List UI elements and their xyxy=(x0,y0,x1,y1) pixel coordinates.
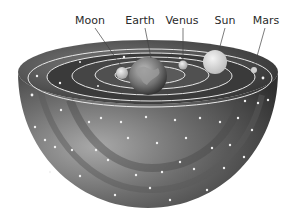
label-venus: Venus xyxy=(165,14,198,27)
label-moon: Moon xyxy=(75,14,105,27)
earth-icon xyxy=(129,57,167,95)
venus-icon xyxy=(179,61,188,70)
sun-icon xyxy=(203,50,227,74)
label-mars: Mars xyxy=(253,14,280,27)
moon-icon xyxy=(116,67,128,79)
label-earth: Earth xyxy=(125,14,155,27)
geocentric-diagram: Moon Earth Venus Sun Mars xyxy=(0,0,300,218)
hemisphere-illustration xyxy=(0,0,300,218)
label-sun: Sun xyxy=(215,14,236,27)
mars-icon xyxy=(251,67,257,73)
